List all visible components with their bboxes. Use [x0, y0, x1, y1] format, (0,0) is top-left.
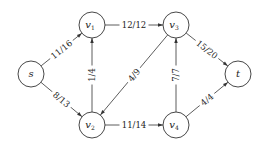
- node-v4: v4: [163, 112, 189, 138]
- edge-s-v1: 11/16: [41, 33, 82, 66]
- edge-label-group: 8/13: [49, 88, 74, 112]
- edge-v3-t: 15/20: [186, 33, 228, 66]
- node-v1: v1: [79, 12, 105, 38]
- edge-label-group: 1/4: [87, 66, 98, 85]
- edge-v4-t: 4/4: [186, 82, 228, 116]
- edge-v4-v3: 7/7: [171, 38, 182, 112]
- edge-label: 7/7: [171, 68, 181, 82]
- edge-label-group: 11/14: [120, 120, 149, 131]
- node-label: s: [28, 68, 33, 79]
- edge-label: 1/4: [87, 68, 97, 82]
- edge-label-group: 4/4: [196, 89, 218, 110]
- edge-label-group: 7/7: [171, 66, 182, 85]
- flow-network-diagram: 11/168/1312/121/44/911/147/715/204/4 sv1…: [0, 0, 264, 144]
- edge-label-group: 12/12: [120, 20, 149, 31]
- node-s: s: [18, 61, 44, 87]
- node-subscript: 4: [175, 124, 179, 131]
- edge-label: 15/20: [194, 38, 219, 61]
- edge-label-group: 11/16: [47, 36, 76, 63]
- edge-label: 11/16: [49, 38, 74, 61]
- edge-label: 11/14: [122, 120, 147, 130]
- node-name: s: [28, 68, 33, 79]
- edge-label: 12/12: [122, 20, 147, 30]
- node-subscript: 2: [91, 124, 95, 131]
- node-subscript: 3: [175, 24, 179, 31]
- edge-v2-v1: 1/4: [87, 38, 98, 112]
- edge-s-v2: 8/13: [41, 82, 82, 116]
- node-t: t: [225, 61, 251, 87]
- edge-label-group: 4/9: [124, 64, 145, 86]
- edges-layer: 11/168/1312/121/44/911/147/715/204/4: [41, 20, 228, 131]
- edge-v2-v4: 11/14: [105, 120, 163, 131]
- edge-v1-v3: 12/12: [105, 20, 163, 31]
- node-subscript: 1: [91, 24, 95, 31]
- node-v2: v2: [79, 112, 105, 138]
- edge-v3-v2: 4/9: [100, 35, 167, 115]
- edge-label-group: 15/20: [192, 36, 222, 63]
- node-v3: v3: [163, 12, 189, 38]
